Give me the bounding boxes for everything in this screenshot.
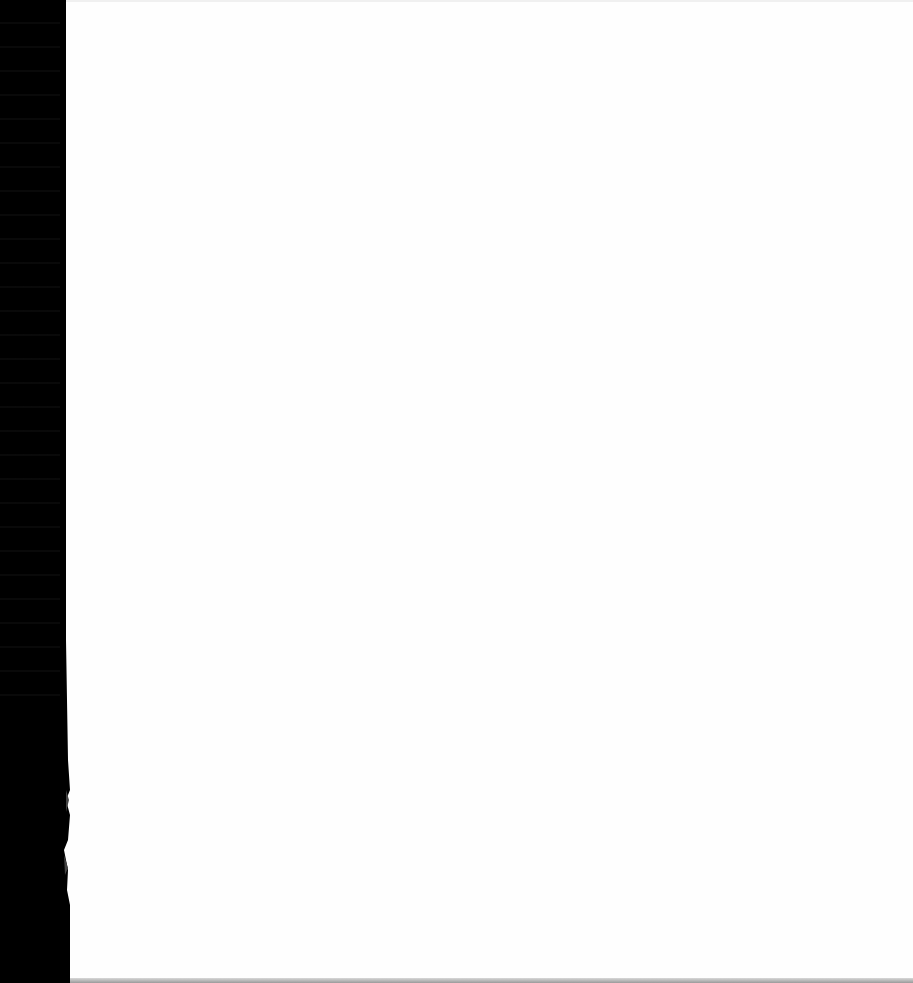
scanned-document (0, 0, 913, 983)
page-bottom-edge (66, 978, 913, 983)
page-top-edge (66, 0, 913, 2)
scan-noise-lines (0, 0, 60, 700)
blank-page (66, 0, 913, 979)
scanner-binding-strip (0, 0, 64, 983)
